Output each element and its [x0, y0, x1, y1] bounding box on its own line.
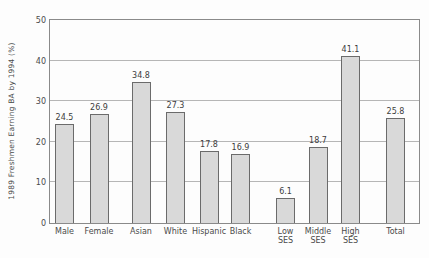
gridline-30 [50, 100, 419, 101]
bar-value-label: 16.9 [221, 143, 261, 152]
bar-middle-ses [309, 147, 328, 223]
bar-value-label: 24.5 [45, 113, 85, 122]
bar-value-label: 26.9 [79, 103, 119, 112]
y-tick-label: 40 [16, 57, 46, 66]
bar-value-label: 34.8 [121, 71, 161, 80]
x-tick-label: HighSES [328, 227, 374, 245]
bar-low-ses [276, 198, 295, 223]
bar-value-label: 41.1 [331, 45, 371, 54]
plot-area: 0102030405024.5Male26.9Female34.8Asian27… [49, 19, 420, 224]
bar-asian [132, 82, 151, 223]
bar-value-label: 25.8 [376, 107, 416, 116]
bar-white [166, 112, 185, 223]
bar-value-label: 18.7 [298, 136, 338, 145]
bar-female [90, 114, 109, 223]
y-tick-label: 30 [16, 97, 46, 106]
bar-value-label: 27.3 [156, 101, 196, 110]
y-tick-label: 10 [16, 178, 46, 187]
x-tick-label: Black [218, 227, 264, 236]
bar-chart: 1989 Freshmen Earning BA by 1994 (%) 010… [0, 0, 429, 258]
bar-hispanic [200, 151, 219, 223]
bar-value-label: 6.1 [266, 187, 306, 196]
bar-high-ses [341, 56, 360, 223]
y-tick-label: 50 [16, 16, 46, 25]
gridline-40 [50, 60, 419, 61]
x-tick-label: Female [76, 227, 122, 236]
bar-male [55, 124, 74, 223]
x-tick-label: Total [373, 227, 419, 236]
y-tick-label: 20 [16, 138, 46, 147]
bar-black [231, 154, 250, 223]
bar-total [386, 118, 405, 223]
y-axis-title: 1989 Freshmen Earning BA by 1994 (%) [7, 42, 16, 199]
